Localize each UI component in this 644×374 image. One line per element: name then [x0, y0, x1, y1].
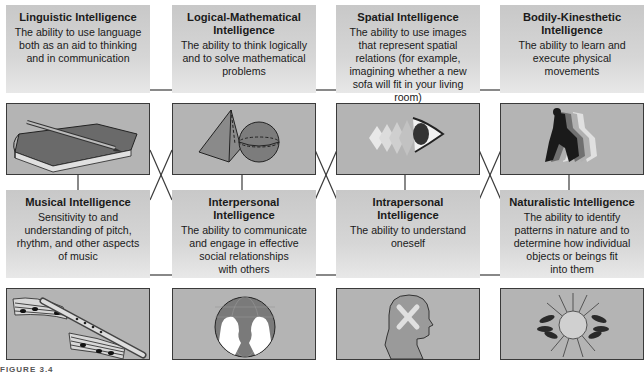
eye-icon: [337, 104, 480, 175]
card-bodily-kinesthetic-intelligence: Bodily-Kinesthetic Intelligence The abil…: [500, 5, 644, 175]
card-interpersonal-intelligence: Interpersonal Intelligence The ability t…: [172, 190, 316, 360]
text-panel: Spatial Intelligence The ability to use …: [336, 5, 480, 93]
image-panel: [336, 288, 480, 360]
card-title: Linguistic Intelligence: [10, 11, 146, 24]
text-panel: Interpersonal Intelligence The ability t…: [172, 190, 316, 278]
card-description: The ability to use language both as an a…: [10, 26, 146, 65]
card-title: Intrapersonal Intelligence: [340, 196, 476, 222]
card-title: Musical Intelligence: [10, 196, 146, 209]
card-logical-mathematical-intelligence: Logical-Mathematical Intelligence The ab…: [172, 5, 316, 175]
text-panel: Musical Intelligence Sensitivity to and …: [6, 190, 150, 278]
image-panel: [172, 103, 316, 175]
image-panel: [500, 103, 644, 175]
figure-label: FIGURE 3.4: [0, 365, 54, 374]
card-title: Spatial Intelligence: [340, 11, 476, 24]
recorder-and-sheet-music-icon: [7, 289, 150, 360]
card-intrapersonal-intelligence: Intrapersonal Intelligence The ability t…: [336, 190, 480, 360]
card-description: The ability to use images that represent…: [340, 26, 476, 104]
globe-with-faces-icon: [173, 289, 316, 360]
text-panel: Naturalistic Intelligence The ability to…: [500, 190, 644, 278]
text-panel: Bodily-Kinesthetic Intelligence The abil…: [500, 5, 644, 93]
card-musical-intelligence: Musical Intelligence Sensitivity to and …: [6, 190, 150, 360]
card-title: Logical-Mathematical Intelligence: [176, 11, 312, 37]
card-description: The ability to think logically and to so…: [176, 39, 312, 78]
card-description: The ability to learn and execute physica…: [504, 39, 640, 78]
card-title: Interpersonal Intelligence: [176, 196, 312, 222]
sun-with-leaves-icon: [501, 289, 644, 360]
text-panel: Logical-Mathematical Intelligence The ab…: [172, 5, 316, 93]
card-description: The ability to communicate and engage in…: [176, 224, 312, 276]
runner-icon: [501, 104, 644, 175]
image-panel: [172, 288, 316, 360]
card-description: The ability to understand oneself: [340, 224, 476, 250]
text-panel: Linguistic Intelligence The ability to u…: [6, 5, 150, 93]
image-panel: [336, 103, 480, 175]
card-description: The ability to identify patterns in natu…: [504, 211, 640, 276]
image-panel: [6, 288, 150, 360]
card-naturalistic-intelligence: Naturalistic Intelligence The ability to…: [500, 190, 644, 360]
text-panel: Intrapersonal Intelligence The ability t…: [336, 190, 480, 278]
card-title: Bodily-Kinesthetic Intelligence: [504, 11, 640, 37]
book-and-pencil-icon: [7, 104, 150, 175]
pyramid-and-sphere-icon: [173, 104, 316, 175]
card-title: Naturalistic Intelligence: [504, 196, 640, 209]
card-spatial-intelligence: Spatial Intelligence The ability to use …: [336, 5, 480, 175]
image-panel: [500, 288, 644, 360]
card-linguistic-intelligence: Linguistic Intelligence The ability to u…: [6, 5, 150, 175]
head-silhouette-icon: [337, 289, 480, 360]
card-description: Sensitivity to and understanding of pitc…: [10, 211, 146, 263]
image-panel: [6, 103, 150, 175]
